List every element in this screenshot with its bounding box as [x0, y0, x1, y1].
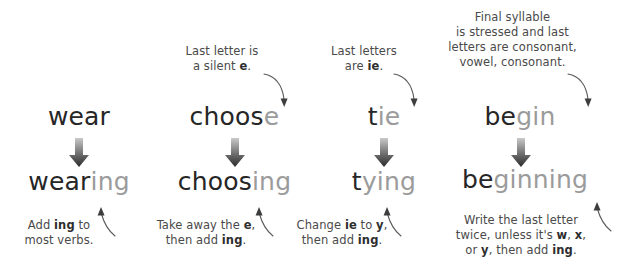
result-word-highlight: ying	[362, 167, 416, 196]
caption-line: Take away the e,	[142, 218, 270, 233]
base-word-wear: wear	[0, 102, 158, 131]
emphasis-text: ing	[54, 218, 75, 232]
result-word-wearing: wearing	[0, 167, 158, 196]
result-word-highlight: ginning	[494, 165, 589, 194]
emphasis-text: w	[557, 228, 568, 242]
base-word-begin: begin	[430, 102, 610, 131]
caption-line: Last letter is	[152, 44, 292, 59]
down-arrow-icon-tie	[373, 138, 395, 168]
emphasis-text: ie	[345, 218, 357, 232]
result-word-stem: t	[352, 167, 362, 196]
emphasis-text: y	[376, 218, 384, 232]
base-word-stem: wear	[48, 102, 110, 131]
base-word-highlight: gin	[516, 102, 555, 131]
base-word-stem: t	[368, 102, 378, 131]
top-caption-choose: Last letter is a silent e.	[152, 44, 292, 74]
down-arrow-icon-wear	[68, 138, 90, 168]
down-arrow-icon-begin	[510, 138, 532, 168]
result-word-stem: wear	[28, 167, 90, 196]
result-word-highlight: ing	[90, 167, 129, 196]
rule-column-tie: Last letters are ie. tie tying	[310, 0, 450, 280]
bottom-caption-begin: Write the last letter twice, unless it's…	[440, 213, 602, 258]
ing-spelling-rules-diagram: wear wearing Add ing to most verbs. Last…	[0, 0, 632, 280]
result-word-stem: choos	[178, 167, 252, 196]
caption-line: is stressed and last	[430, 25, 595, 40]
bottom-caption-wear: Add ing to most verbs.	[4, 218, 114, 248]
caption-line: Last letters	[310, 44, 418, 59]
result-word-highlight: ing	[252, 167, 291, 196]
base-word-highlight: ie	[378, 102, 401, 131]
caption-line: letters are consonant,	[430, 40, 595, 55]
top-caption-tie: Last letters are ie.	[310, 44, 418, 74]
caption-line: or y, then add ing.	[440, 243, 602, 258]
emphasis-text: ing	[552, 243, 573, 257]
top-caption-begin: Final syllable is stressed and last lett…	[430, 10, 595, 70]
emphasis-text: e	[239, 59, 247, 73]
emphasis-text: x	[575, 228, 583, 242]
emphasis-text: e	[244, 218, 252, 232]
caption-line: a silent e.	[152, 59, 292, 74]
emphasis-text: ie	[367, 59, 379, 73]
caption-line: vowel, consonant.	[430, 55, 595, 70]
caption-line: then add ing.	[142, 233, 270, 248]
emphasis-text: ing	[222, 233, 243, 247]
result-word-stem: be	[462, 165, 494, 194]
base-word-highlight: e	[264, 102, 280, 131]
rule-column-begin: Final syllable is stressed and last lett…	[430, 0, 632, 280]
caption-line: then add ing.	[286, 233, 398, 248]
down-arrow-icon-choose	[224, 138, 246, 168]
result-word-beginning: beginning	[430, 165, 620, 194]
caption-line: twice, unless it's w, x,	[440, 228, 602, 243]
rule-column-wear: wear wearing Add ing to most verbs.	[0, 0, 158, 280]
bottom-caption-choose: Take away the e, then add ing.	[142, 218, 270, 248]
caption-line: are ie.	[310, 59, 418, 74]
caption-line: Add ing to	[4, 218, 114, 233]
bottom-caption-tie: Change ie to y, then add ing.	[286, 218, 398, 248]
result-word-choosing: choosing	[152, 167, 317, 196]
caption-line: Final syllable	[430, 10, 595, 25]
caption-line: Write the last letter	[440, 213, 602, 228]
caption-line: Change ie to y,	[286, 218, 398, 233]
base-word-choose: choose	[152, 102, 317, 131]
caption-line: most verbs.	[4, 233, 114, 248]
emphasis-text: ing	[358, 233, 379, 247]
base-word-stem: be	[485, 102, 517, 131]
emphasis-text: y	[481, 243, 489, 257]
base-word-stem: choos	[190, 102, 264, 131]
